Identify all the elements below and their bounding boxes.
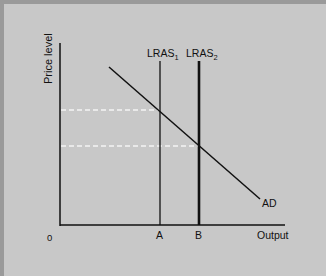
y-axis-label: Price level <box>42 33 54 84</box>
ad-lras-chart: Price level Output 0 A B LRAS1 LRAS2 AD <box>0 0 326 276</box>
lras2-label-main: LRAS <box>186 47 213 59</box>
lras2-label-sub: 2 <box>213 53 217 62</box>
ad-label: AD <box>262 197 277 209</box>
ad-curve <box>109 67 260 199</box>
tick-label-a: A <box>156 229 163 241</box>
origin-label: 0 <box>47 232 52 243</box>
lras2-label: LRAS2 <box>186 47 218 62</box>
lras1-label-main: LRAS <box>147 47 174 59</box>
x-axis-label: Output <box>257 229 289 241</box>
lras1-label-sub: 1 <box>174 53 178 62</box>
lras1-label: LRAS1 <box>147 47 179 62</box>
tick-label-b: B <box>195 229 202 241</box>
